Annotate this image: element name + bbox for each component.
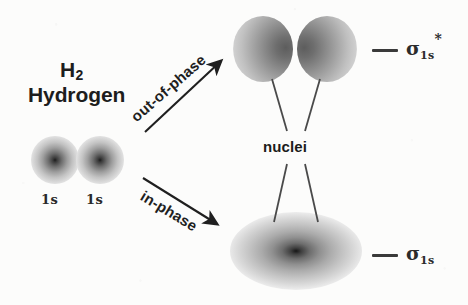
- energy-level-dash-antibonding: [372, 49, 398, 52]
- sigma-subscript-antibonding: 1s: [420, 49, 434, 62]
- energy-level-dash-bonding: [372, 254, 398, 257]
- leader-line-upper-right: [305, 79, 320, 131]
- nuclei-label: nuclei: [263, 138, 307, 155]
- sigma-antibonding-symbol: σ1s*: [406, 39, 434, 61]
- sigma-bonding-symbol: σ1s: [406, 244, 434, 266]
- sigma-glyph-bonding: σ: [406, 242, 420, 264]
- leader-line-lower-right: [305, 164, 318, 222]
- energy-level-antibonding: σ1s*: [372, 39, 434, 61]
- leader-line-lower-left: [274, 164, 287, 222]
- mo-diagram-figure: H2 Hydrogen 1s 1s out-of-phase in-phase: [0, 0, 468, 305]
- sigma-glyph-antibonding: σ: [406, 37, 420, 59]
- sigma-subscript-bonding: 1s: [420, 254, 434, 267]
- leader-line-upper-left: [272, 79, 287, 131]
- sigma-superscript-antibonding: *: [434, 32, 441, 46]
- energy-level-bonding: σ1s: [372, 244, 434, 266]
